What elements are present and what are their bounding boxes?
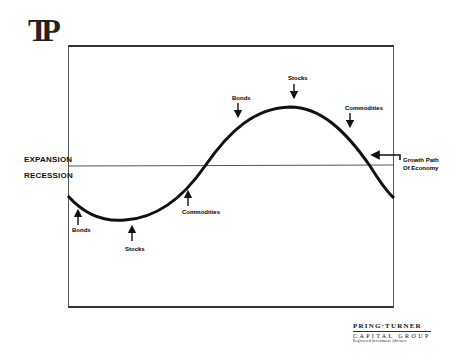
- brand-line3: Registered Investment Advisors: [353, 339, 431, 343]
- label-bonds-top: Bonds: [232, 95, 251, 101]
- brand-block: PRING·TURNER CAPITAL GROUP Registered In…: [353, 322, 431, 343]
- label-growth-path-1: Growth Path: [403, 157, 439, 163]
- label-growth-path-2: Of Economy: [403, 165, 439, 171]
- label-recession: RECESSION: [24, 171, 73, 180]
- economy-curve: [68, 107, 394, 220]
- label-expansion: EXPANSION: [24, 155, 72, 164]
- label-commodities-top: Commodities: [345, 105, 384, 111]
- label-bonds-bottom: Bonds: [72, 227, 91, 233]
- growth-baseline: [68, 165, 394, 166]
- label-stocks-top: Stocks: [288, 75, 308, 81]
- brand-name: PRING·TURNER: [353, 322, 431, 332]
- growth-path-arrow-icon: [375, 155, 400, 160]
- label-stocks-bottom: Stocks: [125, 246, 145, 252]
- label-commodities-bottom: Commodities: [182, 209, 221, 215]
